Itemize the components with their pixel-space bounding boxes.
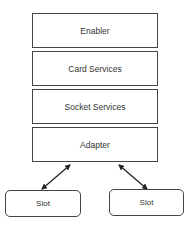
arrow-adapter-right-slot <box>119 165 147 189</box>
slot-left-label: Slot <box>36 199 50 208</box>
slot-right-label: Slot <box>140 198 154 207</box>
slot-right: Slot <box>109 189 184 216</box>
arrow-adapter-left-slot <box>42 165 70 189</box>
slot-left: Slot <box>5 190 81 217</box>
